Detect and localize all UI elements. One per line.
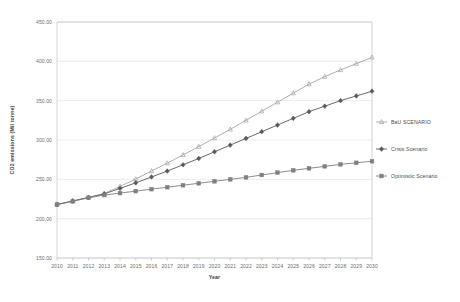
data-point-marker bbox=[134, 189, 138, 193]
data-point-marker bbox=[213, 179, 217, 183]
legend-label-optimistic-scenario[interactable]: Optimistic Scenario bbox=[391, 173, 438, 179]
x-axis-tick-label: 2028 bbox=[335, 263, 347, 269]
y-axis-tick-label: 350.00 bbox=[36, 98, 52, 104]
data-point-marker bbox=[102, 193, 106, 197]
x-axis-tick-label: 2013 bbox=[98, 263, 110, 269]
data-point-marker bbox=[307, 166, 311, 170]
data-point-marker bbox=[260, 173, 264, 177]
data-point-marker bbox=[244, 175, 248, 179]
data-point-marker bbox=[71, 199, 75, 203]
data-point-marker bbox=[150, 187, 154, 191]
x-axis-tick-label: 2010 bbox=[51, 263, 63, 269]
data-point-marker bbox=[370, 159, 374, 163]
y-axis-tick-label: 250.00 bbox=[36, 176, 52, 182]
legend-marker bbox=[379, 147, 383, 152]
x-axis-tick-label: 2022 bbox=[240, 263, 252, 269]
x-axis-tick-label: 2018 bbox=[177, 263, 189, 269]
x-axis-tick-label: 2021 bbox=[224, 263, 236, 269]
x-axis-tick-label: 2029 bbox=[350, 263, 362, 269]
x-axis-tick-label: 2014 bbox=[114, 263, 126, 269]
x-axis-tick-label: 2012 bbox=[83, 263, 95, 269]
data-point-marker bbox=[181, 183, 185, 187]
data-point-marker bbox=[165, 185, 169, 189]
x-axis-tick-label: 2027 bbox=[319, 263, 331, 269]
x-axis-tick-label: 2011 bbox=[67, 263, 78, 269]
data-point-marker bbox=[118, 191, 122, 195]
y-axis-title: CO2 emissions (Mil tonne) bbox=[9, 105, 15, 174]
legend-marker bbox=[380, 174, 384, 178]
x-axis-tick-label: 2026 bbox=[303, 263, 315, 269]
data-point-marker bbox=[228, 177, 232, 181]
x-axis-tick-label: 2025 bbox=[287, 263, 299, 269]
co2-emissions-line-chart: 150.00200.00250.00300.00350.00400.00450.… bbox=[0, 0, 460, 302]
data-point-marker bbox=[55, 203, 59, 207]
x-axis-tick-label: 2017 bbox=[161, 263, 173, 269]
data-point-marker bbox=[197, 181, 201, 185]
data-point-marker bbox=[354, 161, 358, 165]
legend-label-bau-scenario[interactable]: BaU SCENARIO bbox=[391, 119, 431, 125]
legend-label-crisis-scenario[interactable]: Crisis Scenario bbox=[391, 146, 427, 152]
x-axis-tick-label: 2030 bbox=[366, 263, 378, 269]
y-axis-tick-label: 450.00 bbox=[36, 19, 52, 25]
data-point-marker bbox=[87, 196, 91, 200]
y-axis-tick-label: 150.00 bbox=[36, 255, 52, 261]
x-axis-tick-label: 2024 bbox=[272, 263, 284, 269]
y-axis-tick-label: 200.00 bbox=[36, 216, 52, 222]
x-axis-tick-label: 2020 bbox=[209, 263, 221, 269]
y-axis-tick-label: 300.00 bbox=[36, 137, 52, 143]
data-point-marker bbox=[339, 162, 343, 166]
x-axis-tick-label: 2019 bbox=[193, 263, 205, 269]
data-point-marker bbox=[323, 164, 327, 168]
data-point-marker bbox=[291, 168, 295, 172]
x-axis-title: Year bbox=[209, 274, 221, 280]
x-axis-tick-label: 2015 bbox=[130, 263, 142, 269]
chart-container: 150.00200.00250.00300.00350.00400.00450.… bbox=[0, 0, 460, 302]
x-axis-tick-label: 2023 bbox=[256, 263, 268, 269]
y-axis-tick-label: 400.00 bbox=[36, 58, 52, 64]
data-point-marker bbox=[276, 171, 280, 175]
x-axis-tick-label: 2016 bbox=[146, 263, 158, 269]
